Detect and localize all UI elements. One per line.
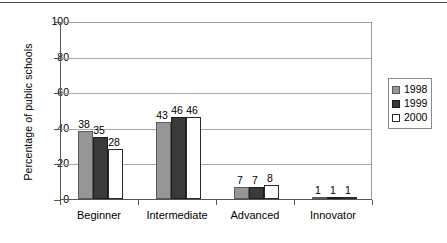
- bar-advanced-2000: [264, 185, 279, 199]
- bar-innovator-1999: [327, 197, 342, 199]
- value-label-intermediate-2000: 46: [179, 105, 206, 116]
- plot-top-border: [61, 22, 372, 23]
- x-tick-mark: [294, 200, 295, 205]
- legend-swatch-icon-1998: [392, 86, 400, 94]
- y-axis-title: Percentage of public schools: [22, 22, 36, 202]
- legend-item-1998: 1998: [392, 83, 427, 96]
- legend-label: 2000: [404, 112, 427, 123]
- x-category-label-advanced: Advanced: [216, 209, 294, 221]
- bar-beginner-2000: [108, 149, 123, 199]
- bar-intermediate-1998: [156, 122, 171, 199]
- bar-beginner-1998: [78, 131, 93, 199]
- legend-label: 1998: [404, 84, 427, 95]
- legend-item-2000: 2000: [392, 111, 427, 124]
- legend-swatch-icon-2000: [392, 114, 400, 122]
- gridline: [61, 93, 372, 94]
- bar-innovator-2000: [342, 197, 357, 199]
- chart-legend: 199819992000: [388, 78, 432, 129]
- legend-label: 1999: [404, 98, 427, 109]
- x-tick-mark: [216, 200, 217, 205]
- plot-right-border: [371, 22, 372, 199]
- x-tick-mark: [372, 200, 373, 205]
- x-tick-mark: [138, 200, 139, 205]
- bar-advanced-1999: [249, 187, 264, 199]
- bar-chart-figure: Percentage of public schools 02040608010…: [0, 0, 447, 243]
- legend-swatch-icon-1999: [392, 100, 400, 108]
- x-category-label-innovator: Innovator: [294, 209, 372, 221]
- value-label-innovator-2000: 1: [335, 185, 362, 196]
- value-label-beginner-2000: 28: [101, 137, 128, 148]
- bar-intermediate-2000: [186, 117, 201, 199]
- plot-area: [60, 22, 372, 200]
- bar-advanced-1998: [234, 187, 249, 199]
- legend-item-1999: 1999: [392, 97, 427, 110]
- gridline: [61, 58, 372, 59]
- value-label-advanced-2000: 8: [257, 173, 284, 184]
- x-tick-mark: [60, 200, 61, 205]
- bar-innovator-1998: [312, 197, 327, 199]
- bar-intermediate-1999: [171, 117, 186, 199]
- value-label-beginner-1999: 35: [86, 125, 113, 136]
- x-category-label-intermediate: Intermediate: [138, 209, 216, 221]
- x-category-label-beginner: Beginner: [60, 209, 138, 221]
